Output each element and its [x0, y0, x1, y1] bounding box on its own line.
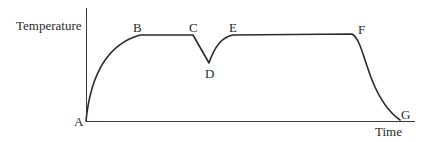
point-label-d: D [205, 66, 214, 81]
point-label-b: B [133, 20, 142, 35]
y-axis-label: Temperature [16, 18, 82, 33]
point-label-e: E [229, 20, 237, 35]
temperature-time-diagram: Temperature Time A B C D E F G [0, 0, 427, 142]
point-label-g: G [401, 107, 410, 122]
point-label-a: A [74, 114, 84, 129]
temperature-curve [86, 34, 400, 121]
x-axis-label: Time [375, 124, 402, 139]
point-label-f: F [358, 22, 365, 37]
point-label-c: C [189, 20, 198, 35]
